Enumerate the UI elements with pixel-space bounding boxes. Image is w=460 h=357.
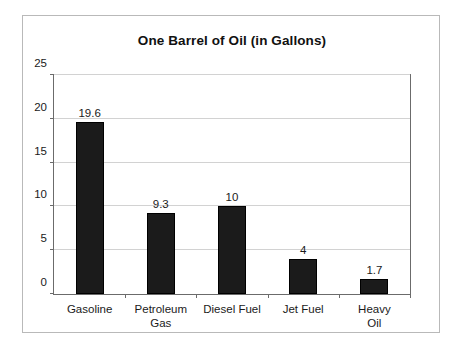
y-axis-tick-label: 10 (34, 188, 47, 200)
bar-value-label: 10 (226, 191, 239, 203)
bar[interactable] (289, 259, 317, 294)
y-axis-tick-label: 5 (41, 232, 47, 244)
chart-frame: One Barrel of Oil (in Gallons) 051015202… (22, 15, 440, 333)
bar-value-label: 9.3 (153, 198, 169, 210)
bar[interactable] (147, 213, 175, 294)
y-axis-tick-label: 15 (34, 145, 47, 157)
chart-title: One Barrel of Oil (in Gallons) (23, 33, 441, 48)
x-axis-category-label: Jet Fuel (283, 302, 324, 316)
x-axis-tick-mark (268, 294, 269, 298)
y-axis-tick-label: 20 (34, 101, 47, 113)
x-axis-tick-mark (196, 294, 197, 298)
x-axis-category-label: Heavy Oil (357, 302, 393, 330)
x-axis-tick-mark (410, 294, 411, 298)
x-axis-tick-mark (125, 294, 126, 298)
bar-slot: 1.7 (339, 75, 410, 294)
bar-slot: 9.3 (125, 75, 196, 294)
x-axis-tick-mark (339, 294, 340, 298)
x-axis-category-label: Petroleum Gas (135, 302, 187, 330)
bar[interactable] (360, 279, 388, 294)
bar-slot: 4 (268, 75, 339, 294)
bar-series: 19.69.31041.7 (54, 75, 410, 294)
bar-value-label: 4 (300, 244, 306, 256)
bar-slot: 19.6 (54, 75, 125, 294)
bar[interactable] (76, 122, 104, 294)
y-axis-tick-label: 0 (41, 276, 47, 288)
bar-slot: 10 (196, 75, 267, 294)
y-axis-tick-label: 25 (34, 57, 47, 69)
bar[interactable] (218, 206, 246, 294)
x-axis-category-label: Gasoline (67, 302, 112, 316)
x-axis-category-label: Diesel Fuel (203, 302, 261, 316)
plot-area: 0510152025 19.69.31041.7 GasolinePetrole… (53, 74, 411, 295)
bar-value-label: 1.7 (366, 264, 382, 276)
bar-value-label: 19.6 (78, 107, 100, 119)
